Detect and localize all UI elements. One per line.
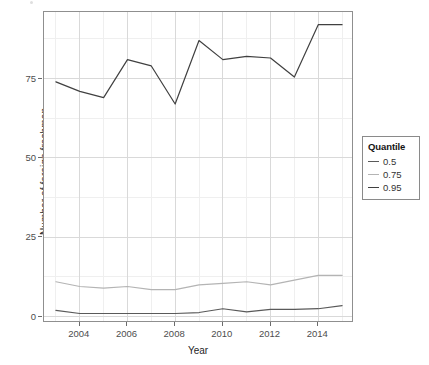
y-tick-mark — [38, 236, 42, 237]
legend-item-label: 0.5 — [383, 155, 396, 168]
x-tick-label: 2012 — [250, 328, 290, 339]
y-tick-label: 25 — [10, 231, 36, 242]
y-tick-label: 75 — [10, 72, 36, 83]
legend-item-0.5[interactable]: 0.5 — [367, 155, 415, 168]
x-tick-label: 2014 — [297, 328, 337, 339]
legend-item-0.95[interactable]: 0.95 — [367, 181, 415, 194]
y-tick-mark — [38, 316, 42, 317]
y-tick-label: 50 — [10, 151, 36, 162]
legend-line-swatch-icon — [367, 169, 380, 180]
x-axis-tick-labels: 200420062008201020122014 — [0, 328, 429, 342]
x-tick-label: 2008 — [154, 328, 194, 339]
x-axis-title: Year — [43, 345, 353, 356]
y-tick-label: 0 — [10, 310, 36, 321]
x-tick-mark — [174, 322, 175, 326]
legend-line-swatch-icon — [367, 156, 380, 167]
plot-series-svg — [44, 12, 353, 322]
legend: Quantile 0.50.750.95 — [362, 136, 420, 200]
x-tick-mark — [126, 322, 127, 326]
quantile-line-chart: Number of foreign freshmen Year 0255075 … — [0, 0, 429, 365]
y-tick-mark — [38, 78, 42, 79]
plot-panel — [43, 11, 353, 322]
legend-item-label: 0.75 — [383, 168, 402, 181]
x-tick-label: 2006 — [106, 328, 146, 339]
legend-item-0.75[interactable]: 0.75 — [367, 168, 415, 181]
x-tick-mark — [317, 322, 318, 326]
legend-line-swatch-icon — [367, 182, 380, 193]
x-tick-label: 2004 — [59, 328, 99, 339]
x-tick-label: 2010 — [202, 328, 242, 339]
y-tick-mark — [38, 157, 42, 158]
legend-items: 0.50.750.95 — [367, 155, 415, 194]
legend-title: Quantile — [368, 141, 415, 152]
legend-item-label: 0.95 — [383, 181, 402, 194]
x-tick-mark — [222, 322, 223, 326]
x-tick-mark — [270, 322, 271, 326]
y-axis-tick-labels: 0255075 — [8, 0, 36, 365]
x-tick-mark — [79, 322, 80, 326]
